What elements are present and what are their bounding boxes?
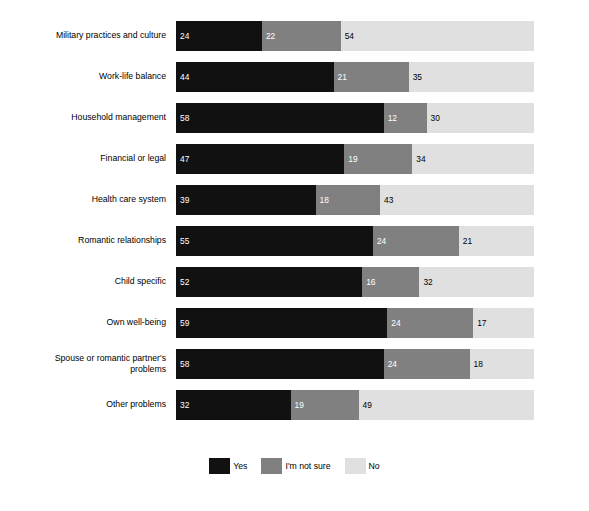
bar-segment-i-m-not-sure: 22 bbox=[262, 21, 341, 51]
bar-segment-no: 17 bbox=[473, 308, 534, 338]
segment-value-label: 21 bbox=[338, 73, 347, 82]
segment-value-label: 58 bbox=[180, 114, 189, 123]
segment-value-label: 39 bbox=[180, 196, 189, 205]
legend-label: No bbox=[369, 461, 380, 471]
bar-segment-i-m-not-sure: 24 bbox=[384, 349, 470, 379]
bar-track: 321949 bbox=[176, 390, 534, 420]
bar-segment-yes: 44 bbox=[176, 62, 334, 92]
bar-segment-no: 32 bbox=[419, 267, 534, 297]
bar-row: Child specific521632 bbox=[0, 267, 589, 308]
bar-segment-yes: 59 bbox=[176, 308, 387, 338]
bar-row: Health care system391843 bbox=[0, 185, 589, 226]
segment-value-label: 43 bbox=[384, 196, 393, 205]
segment-value-label: 24 bbox=[388, 360, 397, 369]
category-label: Household management bbox=[0, 103, 176, 133]
legend-label: Yes bbox=[233, 461, 247, 471]
bar-row: Military practices and culture242254 bbox=[0, 21, 589, 62]
bar-segment-no: 18 bbox=[470, 349, 534, 379]
segment-value-label: 47 bbox=[180, 155, 189, 164]
legend-item[interactable]: No bbox=[345, 458, 380, 474]
segment-value-label: 58 bbox=[180, 360, 189, 369]
bar-segment-i-m-not-sure: 24 bbox=[373, 226, 459, 256]
bar-segment-yes: 58 bbox=[176, 103, 384, 133]
bar-segment-yes: 55 bbox=[176, 226, 373, 256]
legend-item[interactable]: Yes bbox=[209, 458, 247, 474]
bar-segment-yes: 39 bbox=[176, 185, 316, 215]
category-label: Work-life balance bbox=[0, 62, 176, 92]
segment-value-label: 17 bbox=[477, 319, 486, 328]
bar-row: Spouse or romantic partner's problems582… bbox=[0, 349, 589, 390]
plot-area: Military practices and culture242254Work… bbox=[0, 21, 589, 431]
category-label: Own well-being bbox=[0, 308, 176, 338]
category-label: Spouse or romantic partner's problems bbox=[0, 349, 176, 379]
bar-track: 471934 bbox=[176, 144, 534, 174]
category-label: Romantic relationships bbox=[0, 226, 176, 256]
bar-segment-yes: 32 bbox=[176, 390, 291, 420]
bar-segment-yes: 24 bbox=[176, 21, 262, 51]
bar-track: 581230 bbox=[176, 103, 534, 133]
bar-track: 442135 bbox=[176, 62, 534, 92]
bar-row: Own well-being592417 bbox=[0, 308, 589, 349]
bar-segment-no: 35 bbox=[409, 62, 534, 92]
segment-value-label: 19 bbox=[348, 155, 357, 164]
category-label: Military practices and culture bbox=[0, 21, 176, 51]
bar-segment-yes: 58 bbox=[176, 349, 384, 379]
segment-value-label: 24 bbox=[180, 32, 189, 41]
segment-value-label: 34 bbox=[416, 155, 425, 164]
stacked-bar-chart: Military practices and culture242254Work… bbox=[0, 0, 589, 511]
segment-value-label: 55 bbox=[180, 237, 189, 246]
segment-value-label: 52 bbox=[180, 278, 189, 287]
segment-value-label: 54 bbox=[345, 32, 354, 41]
bar-segment-i-m-not-sure: 19 bbox=[344, 144, 412, 174]
bar-segment-i-m-not-sure: 19 bbox=[291, 390, 359, 420]
bar-segment-no: 49 bbox=[359, 390, 534, 420]
bar-track: 521632 bbox=[176, 267, 534, 297]
bar-segment-no: 21 bbox=[459, 226, 534, 256]
category-label: Other problems bbox=[0, 390, 176, 420]
segment-value-label: 16 bbox=[366, 278, 375, 287]
bar-segment-no: 54 bbox=[341, 21, 534, 51]
bar-track: 582418 bbox=[176, 349, 534, 379]
segment-value-label: 19 bbox=[295, 401, 304, 410]
bar-row: Other problems321949 bbox=[0, 390, 589, 431]
segment-value-label: 12 bbox=[388, 114, 397, 123]
legend-item[interactable]: I'm not sure bbox=[261, 458, 330, 474]
bar-segment-i-m-not-sure: 18 bbox=[316, 185, 380, 215]
bar-row: Financial or legal471934 bbox=[0, 144, 589, 185]
segment-value-label: 49 bbox=[363, 401, 372, 410]
bar-segment-no: 34 bbox=[412, 144, 534, 174]
bar-row: Work-life balance442135 bbox=[0, 62, 589, 103]
bar-segment-no: 30 bbox=[427, 103, 534, 133]
segment-value-label: 32 bbox=[423, 278, 432, 287]
segment-value-label: 18 bbox=[474, 360, 483, 369]
bar-row: Household management581230 bbox=[0, 103, 589, 144]
segment-value-label: 30 bbox=[431, 114, 440, 123]
legend-swatch-icon bbox=[209, 458, 230, 474]
bar-segment-i-m-not-sure: 24 bbox=[387, 308, 473, 338]
category-label: Child specific bbox=[0, 267, 176, 297]
bar-segment-yes: 52 bbox=[176, 267, 362, 297]
segment-value-label: 59 bbox=[180, 319, 189, 328]
segment-value-label: 35 bbox=[413, 73, 422, 82]
bar-segment-i-m-not-sure: 12 bbox=[384, 103, 427, 133]
bar-track: 592417 bbox=[176, 308, 534, 338]
bar-segment-yes: 47 bbox=[176, 144, 344, 174]
category-label: Health care system bbox=[0, 185, 176, 215]
bar-segment-no: 43 bbox=[380, 185, 534, 215]
segment-value-label: 32 bbox=[180, 401, 189, 410]
bar-track: 552421 bbox=[176, 226, 534, 256]
bar-segment-i-m-not-sure: 16 bbox=[362, 267, 419, 297]
segment-value-label: 21 bbox=[463, 237, 472, 246]
segment-value-label: 24 bbox=[377, 237, 386, 246]
bar-row: Romantic relationships552421 bbox=[0, 226, 589, 267]
bar-track: 242254 bbox=[176, 21, 534, 51]
segment-value-label: 44 bbox=[180, 73, 189, 82]
segment-value-label: 18 bbox=[320, 196, 329, 205]
legend-swatch-icon bbox=[345, 458, 366, 474]
legend-label: I'm not sure bbox=[285, 461, 330, 471]
segment-value-label: 24 bbox=[391, 319, 400, 328]
category-label: Financial or legal bbox=[0, 144, 176, 174]
bar-track: 391843 bbox=[176, 185, 534, 215]
legend-swatch-icon bbox=[261, 458, 282, 474]
chart-legend: YesI'm not sureNo bbox=[0, 458, 589, 474]
